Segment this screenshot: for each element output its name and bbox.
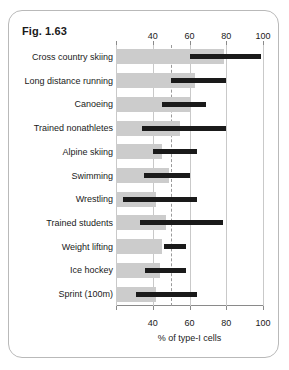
category-label-5: Swimming [71,171,113,181]
x-tick-label-bottom-40: 40 [148,318,158,328]
x-tick-label-top-40: 40 [148,31,158,41]
range-bar-2 [162,102,206,107]
category-label-1: Long distance running [24,76,113,86]
range-bar-5 [144,173,190,178]
x-tick-label-bottom-100: 100 [255,318,270,328]
x-tick-label-top-80: 80 [221,31,231,41]
gridline-80 [226,45,227,306]
category-label-7: Trained students [46,218,113,228]
range-bar-8 [164,244,186,249]
plot-area [116,45,263,306]
x-tick-40 [153,306,154,310]
range-bar-4 [153,149,197,154]
category-label-3: Trained nonathletes [34,123,113,133]
range-bar-1 [171,78,226,83]
range-bar-9 [145,268,185,273]
x-tick-top-100 [263,41,264,45]
x-tick-top-20 [116,41,117,45]
x-tick-label-bottom-80: 80 [221,318,231,328]
category-label-2: Canoeing [74,99,113,109]
x-tick-20 [116,306,117,310]
x-tick-top-80 [226,41,227,45]
category-label-8: Weight lifting [62,242,113,252]
x-tick-100 [263,306,264,310]
x-tick-label-top-60: 60 [184,31,194,41]
x-tick-top-60 [190,41,191,45]
gridline-100 [263,45,264,306]
range-bar-6 [123,197,197,202]
figure-card: Fig. 1.63 Cross country skiingLong dista… [8,10,279,358]
range-bar-3 [142,126,227,131]
category-label-9: Ice hockey [70,265,113,275]
category-label-4: Alpine skiing [62,147,113,157]
x-tick-60 [190,306,191,310]
x-tick-label-top-100: 100 [255,31,270,41]
range-bar-0 [190,54,262,59]
x-tick-80 [226,306,227,310]
x-tick-label-bottom-60: 60 [184,318,194,328]
x-axis-title: % of type-I cells [116,333,263,343]
range-bar-7 [140,220,223,225]
category-label-0: Cross country skiing [32,52,113,62]
x-tick-top-40 [153,41,154,45]
category-label-6: Wrestling [76,194,113,204]
mean-bar-8 [116,239,162,254]
figure-title: Fig. 1.63 [22,25,67,37]
category-label-10: Sprint (100m) [58,289,113,299]
category-axis-labels: Cross country skiingLong distance runnin… [21,45,113,306]
range-bar-10 [136,292,197,297]
